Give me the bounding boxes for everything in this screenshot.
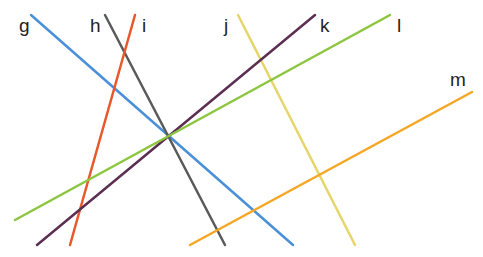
line-m bbox=[190, 92, 472, 245]
label-l: l bbox=[397, 16, 401, 35]
label-h: h bbox=[90, 16, 101, 35]
label-i: i bbox=[142, 16, 146, 35]
line-h bbox=[105, 15, 225, 245]
label-g: g bbox=[19, 16, 30, 35]
line-k bbox=[37, 15, 315, 245]
lines-canvas bbox=[0, 0, 483, 257]
label-k: k bbox=[320, 16, 330, 35]
label-j: j bbox=[224, 16, 228, 35]
line-l bbox=[15, 15, 390, 220]
label-m: m bbox=[450, 70, 466, 89]
